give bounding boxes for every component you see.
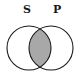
- venn-diagram: S P: [0, 0, 80, 73]
- label-s: S: [23, 3, 31, 16]
- label-p: P: [53, 3, 61, 16]
